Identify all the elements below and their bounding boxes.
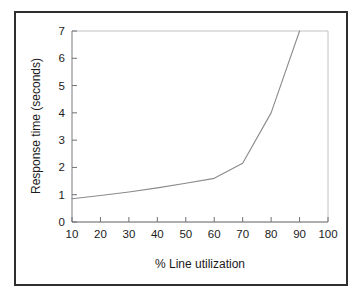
- x-tick-label: 10: [66, 228, 79, 240]
- response-time-line-chart: 01234567 102030405060708090100 % Line ut…: [0, 0, 363, 298]
- x-tick-label: 20: [94, 228, 107, 240]
- x-tick-label: 30: [122, 228, 135, 240]
- x-tick-label: 90: [293, 228, 306, 240]
- x-tick-label: 40: [151, 228, 164, 240]
- figure-root: 01234567 102030405060708090100 % Line ut…: [0, 0, 363, 298]
- y-tick-label: 4: [59, 107, 66, 119]
- x-tick-label: 80: [265, 228, 278, 240]
- x-tick-label: 70: [236, 228, 249, 240]
- x-tick-label: 100: [318, 228, 337, 240]
- x-axis-title: % Line utilization: [155, 257, 245, 271]
- y-tick-label: 2: [59, 161, 65, 173]
- y-axis-title: Response time (seconds): [29, 58, 43, 194]
- y-tick-label: 1: [59, 189, 65, 201]
- x-tick-label: 60: [208, 228, 221, 240]
- y-tick-label: 7: [59, 25, 65, 37]
- y-tick-label: 5: [59, 80, 65, 92]
- y-tick-label: 0: [59, 216, 65, 228]
- y-tick-label: 6: [59, 52, 65, 64]
- y-tick-label: 3: [59, 134, 65, 146]
- x-tick-label: 50: [179, 228, 192, 240]
